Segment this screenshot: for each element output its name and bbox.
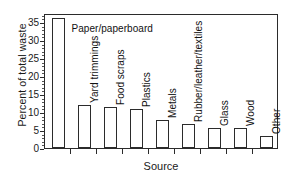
y-tick-label: 20 [28, 72, 39, 82]
bar-category-label: Other [271, 109, 282, 134]
bar-category-label: Glass [219, 100, 230, 126]
bar [130, 109, 143, 148]
x-tick-mark [174, 149, 175, 154]
y-tick-label: 25 [28, 54, 39, 64]
x-tick-mark [70, 149, 71, 154]
bar-category-label: Metals [167, 88, 178, 118]
bar [52, 18, 65, 148]
y-tick-label: 10 [28, 108, 39, 118]
y-tick-label: 5 [33, 126, 39, 136]
bar-series: Paper/paperboardYard trimmingsFood scrap… [45, 15, 277, 148]
bar-category-label: Rubber/leather/textiles [193, 21, 204, 122]
y-tick-label: 0 [33, 144, 39, 154]
bar [208, 128, 221, 148]
bar-category-label: Paper/paperboard [72, 23, 153, 34]
bar-category-label: Plastics [141, 72, 152, 107]
bar [78, 105, 91, 148]
bar-chart-figure: Percent of total waste 05101520253035 Pa… [0, 0, 286, 186]
y-tick-label: 15 [28, 90, 39, 100]
bar [234, 128, 247, 148]
bar [104, 107, 117, 148]
y-tick-label: 35 [28, 18, 39, 28]
bar [182, 124, 195, 148]
plot-area: Paper/paperboardYard trimmingsFood scrap… [44, 14, 278, 149]
x-tick-mark [200, 149, 201, 154]
x-tick-mark [226, 149, 227, 154]
bar-category-label: Food scraps [115, 50, 126, 106]
bar [156, 120, 169, 148]
x-tick-mark [252, 149, 253, 154]
x-axis-ticks [44, 149, 278, 157]
bar-category-label: Wood [245, 100, 256, 126]
x-tick-mark [148, 149, 149, 154]
x-tick-mark [96, 149, 97, 154]
bar-category-label: Yard trimmings [89, 36, 100, 103]
bar [260, 136, 273, 148]
y-axis-tick-labels: 05101520253035 [22, 0, 44, 186]
x-tick-mark [122, 149, 123, 154]
y-tick-label: 30 [28, 36, 39, 46]
x-axis-title: Source [44, 160, 278, 172]
